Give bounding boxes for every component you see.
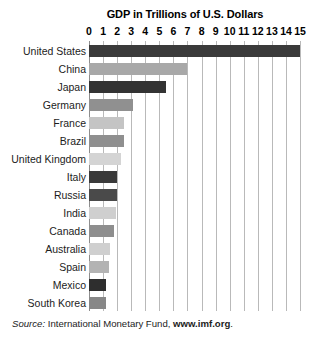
bar-row: Brazil	[0, 132, 312, 150]
x-tick-14: 14	[280, 25, 292, 38]
bar-united-states	[89, 45, 300, 57]
x-tick-7: 7	[185, 25, 191, 38]
bar-row: United Kingdom	[0, 150, 312, 168]
category-label-australia: Australia	[0, 240, 86, 258]
x-tick-1: 1	[100, 25, 106, 38]
bar-australia	[89, 243, 110, 255]
category-label-russia: Russia	[0, 186, 86, 204]
bar-brazil	[89, 135, 124, 147]
x-tick-12: 12	[252, 25, 264, 38]
bar-germany	[89, 99, 133, 111]
x-tick-3: 3	[128, 25, 134, 38]
x-tick-2: 2	[114, 25, 120, 38]
category-label-south-korea: South Korea	[0, 294, 86, 312]
source-label: Source:	[12, 318, 45, 329]
bar-canada	[89, 225, 114, 237]
x-axis-tick-labels: 0123456789101112131415	[0, 25, 312, 39]
bar-row: France	[0, 114, 312, 132]
x-tick-11: 11	[238, 25, 249, 38]
category-label-india: India	[0, 204, 86, 222]
x-tick-9: 9	[213, 25, 219, 38]
bar-row: Russia	[0, 186, 312, 204]
x-tick-15: 15	[294, 25, 306, 38]
bar-series: United StatesChinaJapanGermanyFranceBraz…	[0, 41, 312, 311]
chart-title: GDP in Trillions of U.S. Dollars	[0, 8, 312, 20]
source-body: International Monetary Fund,	[45, 318, 173, 329]
bar-row: Spain	[0, 258, 312, 276]
bar-row: India	[0, 204, 312, 222]
gdp-bar-chart: GDP in Trillions of U.S. Dollars 0123456…	[0, 0, 312, 338]
bar-row: Mexico	[0, 276, 312, 294]
x-tick-6: 6	[170, 25, 176, 38]
category-label-canada: Canada	[0, 222, 86, 240]
bar-france	[89, 117, 124, 129]
bar-india	[89, 207, 116, 219]
bar-italy	[89, 171, 117, 183]
source-note: Source: International Monetary Fund, www…	[12, 318, 233, 329]
bar-united-kingdom	[89, 153, 121, 165]
category-label-japan: Japan	[0, 78, 86, 96]
x-tick-13: 13	[266, 25, 278, 38]
bar-row: Germany	[0, 96, 312, 114]
bar-russia	[89, 189, 117, 201]
x-tick-0: 0	[86, 25, 92, 38]
x-tick-4: 4	[142, 25, 148, 38]
category-label-germany: Germany	[0, 96, 86, 114]
source-url[interactable]: www.imf.org	[173, 318, 230, 329]
bar-row: Italy	[0, 168, 312, 186]
category-label-brazil: Brazil	[0, 132, 86, 150]
x-tick-10: 10	[224, 25, 236, 38]
plot-area: United StatesChinaJapanGermanyFranceBraz…	[0, 41, 312, 311]
category-label-italy: Italy	[0, 168, 86, 186]
category-label-mexico: Mexico	[0, 276, 86, 294]
category-label-united-states: United States	[0, 42, 86, 60]
category-label-france: France	[0, 114, 86, 132]
bar-row: Canada	[0, 222, 312, 240]
bar-row: Japan	[0, 78, 312, 96]
bar-south-korea	[89, 297, 106, 309]
bar-row: Australia	[0, 240, 312, 258]
bar-japan	[89, 81, 166, 93]
bar-row: United States	[0, 42, 312, 60]
bar-row: South Korea	[0, 294, 312, 312]
x-tick-8: 8	[199, 25, 205, 38]
bar-row: China	[0, 60, 312, 78]
x-tick-5: 5	[156, 25, 162, 38]
category-label-china: China	[0, 60, 86, 78]
category-label-spain: Spain	[0, 258, 86, 276]
bar-mexico	[89, 279, 106, 291]
category-label-united-kingdom: United Kingdom	[0, 150, 86, 168]
source-period: .	[230, 318, 233, 329]
bar-spain	[89, 261, 109, 273]
bar-china	[89, 63, 187, 75]
